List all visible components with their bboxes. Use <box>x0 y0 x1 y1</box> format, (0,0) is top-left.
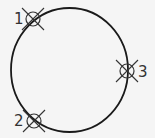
marker-label-1: 1 <box>14 10 24 28</box>
marker-point-3: 3 <box>116 60 148 82</box>
marker-point-1: 1 <box>14 8 44 30</box>
marker-label-3: 3 <box>138 63 148 81</box>
marker-point-2: 2 <box>14 110 45 132</box>
main-circle <box>11 8 128 132</box>
diagram-canvas: 1 2 3 <box>0 0 155 138</box>
marker-label-2: 2 <box>14 112 24 130</box>
diagram-svg: 1 2 3 <box>0 0 155 138</box>
